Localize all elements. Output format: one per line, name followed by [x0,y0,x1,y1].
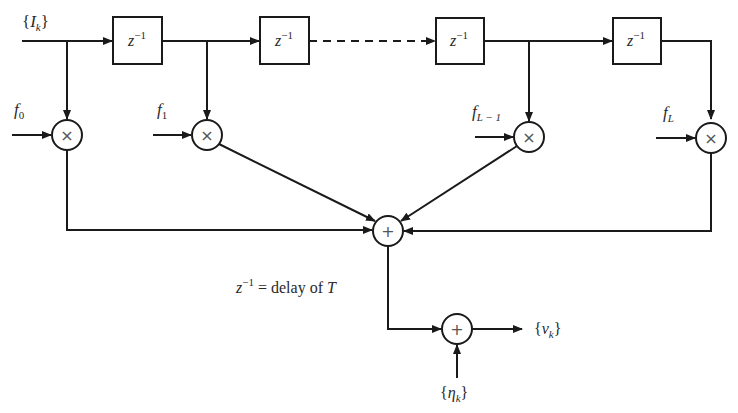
line-f0-to-sum [67,150,372,230]
svg-text:f1: f1 [157,100,167,121]
svg-text:×: × [704,129,717,148]
svg-text:×: × [200,126,213,145]
fir-channel-diagram: {Ik} z−1 z−1 z−1 z−1 f0 × f1 × fL − 1 [0,0,738,413]
svg-text:+: + [450,320,463,339]
noise-adder: + [442,314,472,344]
multiplier-fL-1: fL − 1 × [472,102,544,152]
summer: + [373,216,403,246]
line-to-tap-L [661,41,711,119]
svg-text:+: + [381,222,394,241]
line-sum-to-adder [388,246,441,329]
delay-box-3: z−1 [436,18,484,64]
delay-note: z−1 = delay of T [235,276,337,297]
line-fL-1-to-sum [401,146,517,221]
noise-label: {ηk} [440,384,468,404]
line-fL-to-sum [404,153,711,231]
multiplier-f1: f1 × [153,100,222,150]
svg-text:fL − 1: fL − 1 [472,102,501,123]
delay-box-4: z−1 [613,18,661,64]
delay-box-1: z−1 [113,17,162,64]
multiplier-fL: fL × [656,103,726,153]
delay-box-2: z−1 [260,17,309,64]
multiplier-f0: f0 × [12,100,82,150]
svg-text:f0: f0 [14,100,25,121]
svg-text:×: × [522,128,535,147]
svg-text:fL: fL [663,103,674,124]
svg-text:×: × [60,126,73,145]
line-f1-to-sum [219,144,375,221]
output-label: {vk} [534,320,561,340]
input-label: {Ik} [22,12,49,33]
